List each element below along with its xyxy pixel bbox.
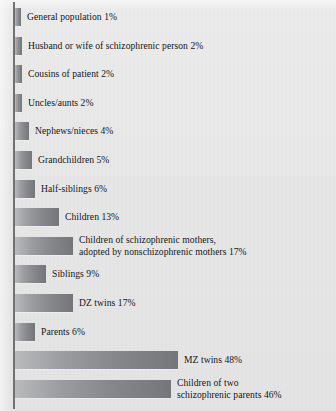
- bar-row: Husband or wife of schizophrenic person …: [15, 37, 336, 55]
- bar-5: [15, 122, 29, 140]
- bar-label-line-2: adopted by nonschizophrenic mothers 17%: [79, 246, 247, 258]
- bar-row: Siblings 9%: [15, 265, 336, 283]
- bar-2: [15, 37, 22, 55]
- bar-label-14: Children of twoschizophrenic parents 46%: [177, 377, 282, 401]
- bar-9: [15, 237, 73, 255]
- bar-label-line-1: Children of schizophrenic mothers,: [79, 234, 216, 245]
- bar-12: [15, 323, 35, 341]
- bar-label-9: Children of schizophrenic mothers,adopte…: [79, 234, 247, 258]
- chart-panel: General population 1%Husband or wife of …: [0, 0, 336, 411]
- bar-label-line-2: schizophrenic parents 46%: [177, 389, 282, 401]
- bar-13: [15, 351, 178, 369]
- bar-chart-plot-area: General population 1%Husband or wife of …: [0, 0, 336, 411]
- bar-row: Uncles/aunts 2%: [15, 94, 336, 112]
- vertical-axis-line: [13, 2, 15, 409]
- bar-row: Children of twoschizophrenic parents 46%: [15, 380, 336, 398]
- bar-14: [15, 380, 171, 398]
- bar-row: MZ twins 48%: [15, 351, 336, 369]
- bar-label-4: Uncles/aunts 2%: [28, 97, 94, 109]
- bar-row: Cousins of patient 2%: [15, 65, 336, 83]
- bar-label-12: Parents 6%: [41, 326, 85, 338]
- bar-label-6: Grandchildren 5%: [38, 154, 109, 166]
- bar-row: Parents 6%: [15, 323, 336, 341]
- bar-row: General population 1%: [15, 8, 336, 26]
- bar-label-5: Nephews/nieces 4%: [35, 126, 113, 138]
- bar-row: DZ twins 17%: [15, 294, 336, 312]
- bar-6: [15, 151, 32, 169]
- bar-label-11: DZ twins 17%: [79, 297, 136, 309]
- bar-row: Children of schizophrenic mothers,adopte…: [15, 237, 336, 255]
- bar-row: Half-siblings 6%: [15, 180, 336, 198]
- bar-label-13: MZ twins 48%: [184, 354, 242, 366]
- bar-label-10: Siblings 9%: [52, 269, 99, 281]
- bar-1: [15, 8, 21, 26]
- bar-11: [15, 294, 73, 312]
- bar-label-7: Half-siblings 6%: [41, 183, 107, 195]
- bar-4: [15, 94, 22, 112]
- bar-label-1: General population 1%: [27, 11, 117, 23]
- bar-7: [15, 180, 35, 198]
- bar-10: [15, 265, 46, 283]
- bar-label-8: Children 13%: [65, 211, 119, 223]
- bar-label-2: Husband or wife of schizophrenic person …: [28, 40, 203, 52]
- bar-row: Children 13%: [15, 208, 336, 226]
- bar-3: [15, 65, 22, 83]
- bar-row: Nephews/nieces 4%: [15, 122, 336, 140]
- bar-label-3: Cousins of patient 2%: [28, 68, 114, 80]
- bar-8: [15, 208, 59, 226]
- bar-row: Grandchildren 5%: [15, 151, 336, 169]
- bar-label-line-1: Children of two: [177, 377, 239, 388]
